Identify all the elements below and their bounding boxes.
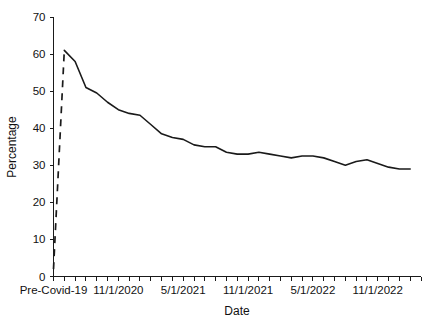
y-tick-label: 40: [33, 122, 46, 134]
x-tick-label: 5/1/2022: [291, 284, 336, 296]
y-tick-label: 60: [33, 48, 46, 60]
y-tick-label: 70: [33, 11, 46, 23]
series-line-solid: [64, 50, 410, 169]
series-line-dashed: [54, 50, 65, 269]
y-tick-label: 10: [33, 233, 46, 245]
x-tick-label: 5/1/2021: [161, 284, 206, 296]
y-axis-title: Percentage: [5, 116, 19, 178]
x-tick-label: 11/1/2020: [93, 284, 143, 296]
y-tick-label: 20: [33, 196, 46, 208]
line-chart: 010203040506070 Pre-Covid-1911/1/20205/1…: [0, 0, 432, 323]
chart-container: 010203040506070 Pre-Covid-1911/1/20205/1…: [0, 0, 432, 323]
y-tick-label: 0: [39, 271, 45, 283]
x-axis-ticks: Pre-Covid-1911/1/20205/1/202111/1/20215/…: [20, 277, 421, 296]
y-tick-label: 50: [33, 85, 46, 97]
x-tick-label: 11/1/2021: [223, 284, 273, 296]
x-tick-label: 11/1/2022: [353, 284, 403, 296]
x-tick-label: Pre-Covid-19: [20, 284, 88, 296]
y-axis-ticks: 010203040506070: [33, 11, 54, 283]
x-axis-title: Date: [224, 304, 250, 318]
y-tick-label: 30: [33, 159, 46, 171]
